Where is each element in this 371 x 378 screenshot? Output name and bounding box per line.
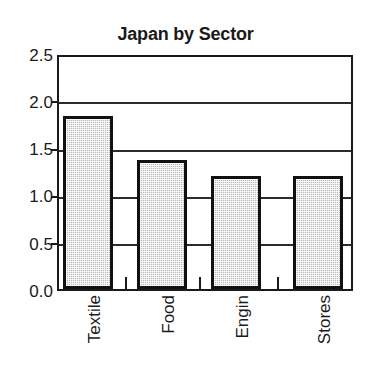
y-tick-label-2-5: 2.5 [5, 47, 53, 64]
y-tick-label-2-0: 2.0 [5, 94, 53, 111]
bar-food[interactable] [137, 160, 187, 289]
x-tick-label-engin: Engin [234, 295, 251, 338]
bar-chart-figure: Japan by Sector 2.5 2.0 1.5 1.0 0.5 0.0 … [0, 0, 371, 378]
x-tick-slot-textile: Textile [61, 291, 111, 378]
x-axis-tick-labels: Textile Food Engin Stores [57, 291, 353, 378]
x-tick-mark-1 [125, 277, 127, 289]
chart-title: Japan by Sector [0, 24, 371, 45]
y-axis-tick-labels: 2.5 2.0 1.5 1.0 0.5 0.0 [0, 0, 53, 378]
x-tick-label-food: Food [160, 295, 177, 334]
bar-engin[interactable] [211, 176, 261, 289]
x-tick-label-stores: Stores [316, 295, 333, 344]
x-tick-slot-stores: Stores [291, 291, 341, 378]
y-tick-label-1-0: 1.0 [5, 188, 53, 205]
y-tick-label-0-0: 0.0 [5, 283, 53, 300]
x-tick-label-textile: Textile [86, 295, 103, 343]
x-tick-slot-engin: Engin [209, 291, 259, 378]
plot-area [57, 55, 353, 291]
bar-textile[interactable] [63, 116, 113, 289]
y-tick-label-0-5: 0.5 [5, 236, 53, 253]
x-tick-slot-food: Food [135, 291, 185, 378]
gridline-2-0 [59, 102, 351, 104]
x-tick-mark-3 [277, 277, 279, 289]
bar-stores[interactable] [293, 176, 343, 289]
y-tick-label-1-5: 1.5 [5, 141, 53, 158]
x-tick-mark-2 [199, 277, 201, 289]
